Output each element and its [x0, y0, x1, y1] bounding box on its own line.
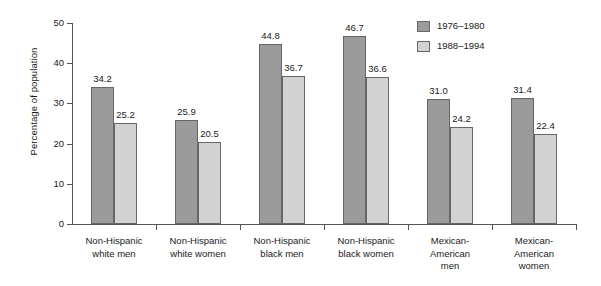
- x-axis-group-label-line: Non-Hispanic: [72, 235, 156, 248]
- x-axis-tick: [324, 224, 325, 230]
- x-axis-group-label-line: women: [492, 260, 576, 273]
- bar-value-label: 31.4: [503, 85, 543, 95]
- bar: [450, 127, 473, 224]
- bar: [114, 123, 137, 224]
- y-axis-tick: [67, 103, 73, 104]
- x-axis-group-label-line: Non-Hispanic: [240, 235, 324, 248]
- x-axis-group-label: Mexican-Americanmen: [408, 235, 492, 273]
- y-axis-line: [72, 23, 73, 225]
- x-axis-group-label: Non-Hispanicwhite women: [156, 235, 240, 260]
- x-axis-tick: [492, 224, 493, 230]
- x-axis-group-label: Non-Hispanicwhite men: [72, 235, 156, 260]
- bar-value-label: 46.7: [335, 23, 375, 33]
- bar-value-label: 34.2: [83, 74, 123, 84]
- bar-value-label: 20.5: [190, 129, 230, 139]
- x-axis-group-label: Non-Hispanicblack women: [324, 235, 408, 260]
- bar-value-label: 36.7: [274, 63, 314, 73]
- bar: [511, 98, 534, 224]
- x-axis-tick: [240, 224, 241, 230]
- x-axis-group-label: Non-Hispanicblack men: [240, 235, 324, 260]
- bar: [366, 77, 389, 224]
- y-axis-tick-label: 40: [24, 58, 64, 68]
- x-axis-group-label-line: American: [408, 248, 492, 261]
- x-axis-group-label-line: Non-Hispanic: [156, 235, 240, 248]
- bar-value-label: 31.0: [419, 86, 459, 96]
- x-axis-group-label-line: Mexican-: [492, 235, 576, 248]
- legend: 1976–1980 1988–1994: [417, 18, 485, 58]
- x-axis-group-label-line: men: [408, 260, 492, 273]
- x-axis-tick: [156, 224, 157, 230]
- x-axis-group-label-line: Mexican-: [408, 235, 492, 248]
- legend-item-1988-1994: 1988–1994: [417, 38, 485, 54]
- legend-swatch-icon: [417, 41, 430, 52]
- bar-value-label: 25.2: [106, 110, 146, 120]
- x-axis-group-label: Mexican-Americanwomen: [492, 235, 576, 273]
- y-axis-tick: [67, 144, 73, 145]
- legend-item-1976-1980: 1976–1980: [417, 18, 485, 34]
- bar: [198, 142, 221, 224]
- bar: [534, 134, 557, 224]
- y-axis-tick-label: 0: [24, 219, 64, 229]
- y-axis-tick-label: 50: [24, 18, 64, 28]
- x-axis-group-label-line: black women: [324, 248, 408, 261]
- legend-swatch-icon: [417, 21, 430, 32]
- x-axis-group-label-line: Non-Hispanic: [324, 235, 408, 248]
- x-axis-group-label-line: American: [492, 248, 576, 261]
- x-axis-group-label-line: white men: [72, 248, 156, 261]
- y-axis-tick: [67, 23, 73, 24]
- bar-value-label: 36.6: [358, 64, 398, 74]
- y-axis-tick: [67, 184, 73, 185]
- bar: [91, 87, 114, 224]
- bar-value-label: 44.8: [251, 31, 291, 41]
- bar-value-label: 24.2: [442, 114, 482, 124]
- bar-value-label: 25.9: [167, 107, 207, 117]
- x-axis-tick: [408, 224, 409, 230]
- legend-label: 1988–1994: [437, 41, 485, 51]
- bar-chart: Percentage of population 1976–1980 1988–…: [0, 0, 601, 286]
- y-axis-tick-label: 30: [24, 98, 64, 108]
- x-axis-group-label-line: white women: [156, 248, 240, 261]
- x-axis-tick: [576, 224, 577, 230]
- bar-value-label: 22.4: [526, 121, 566, 131]
- y-axis-tick: [67, 224, 73, 225]
- legend-label: 1976–1980: [437, 21, 485, 31]
- y-axis-tick: [67, 63, 73, 64]
- plot-area: [72, 23, 576, 224]
- x-axis-group-label-line: black men: [240, 248, 324, 261]
- y-axis-tick-label: 10: [24, 179, 64, 189]
- bar: [282, 76, 305, 224]
- y-axis-tick-label: 20: [24, 139, 64, 149]
